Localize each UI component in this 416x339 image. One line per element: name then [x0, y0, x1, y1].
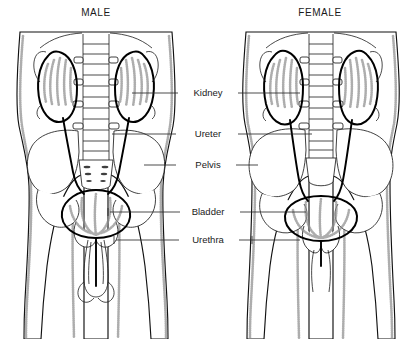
urinary-system-illustration: MALE FEMALE Kidney Ureter Pelvis Bladder… [0, 0, 416, 339]
label-kidney-text: Kidney [193, 87, 222, 98]
label-bladder-text: Bladder [192, 206, 225, 217]
female-sacrum [306, 158, 336, 186]
label-urethra-text: Urethra [192, 234, 224, 245]
label-ureter-text: Ureter [195, 128, 221, 139]
title-female: FEMALE [298, 7, 342, 18]
label-pelvis-text: Pelvis [195, 159, 221, 170]
male-sacrum [79, 160, 113, 190]
diagram-canvas: MALE FEMALE Kidney Ureter Pelvis Bladder… [0, 0, 416, 339]
female-shading-leg-left [298, 216, 299, 338]
female-figure [243, 32, 399, 339]
female-shading-leg-right [343, 216, 344, 338]
title-male: MALE [81, 7, 111, 18]
male-figure [17, 32, 175, 339]
